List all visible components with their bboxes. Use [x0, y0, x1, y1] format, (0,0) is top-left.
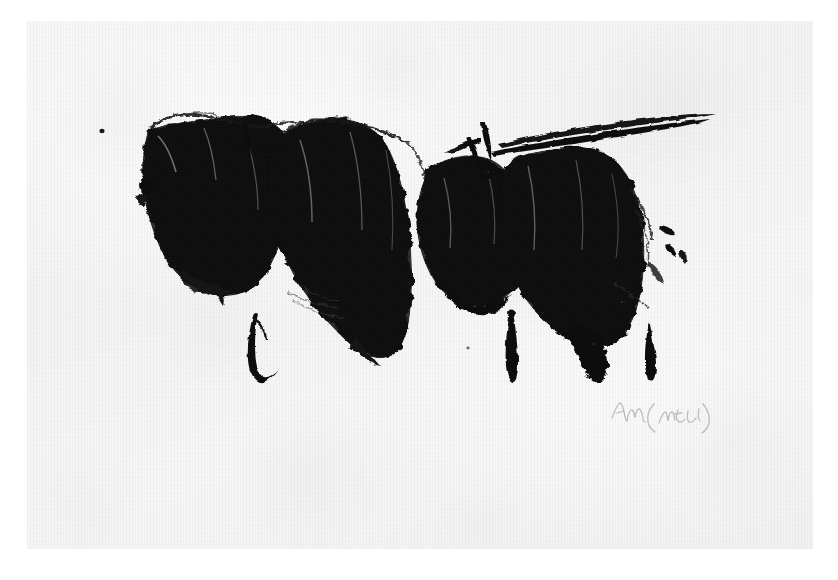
paper-grain-texture: [27, 21, 813, 549]
paper-sheet: [27, 21, 813, 549]
paper-mottle-texture: [27, 21, 813, 549]
pencil-signature: Am (trial): [606, 392, 746, 434]
artwork-plate: Am (trial): [0, 0, 838, 580]
signature-strokes: [606, 392, 746, 434]
